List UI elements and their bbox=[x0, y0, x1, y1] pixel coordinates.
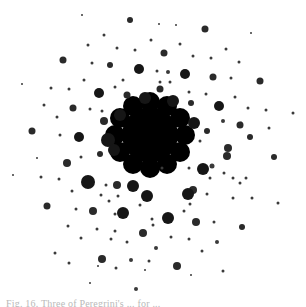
ink-dot bbox=[103, 34, 106, 37]
ink-dot bbox=[58, 178, 61, 181]
ink-dot bbox=[89, 207, 97, 215]
ink-dot bbox=[188, 100, 194, 106]
ink-dot bbox=[116, 47, 119, 50]
central-blob bbox=[105, 92, 195, 178]
central-blob-lobe bbox=[140, 158, 160, 178]
ink-dot bbox=[210, 164, 215, 169]
figure-caption: Fig. 16. Three of Peregrini's ... for ..… bbox=[6, 299, 306, 307]
ink-dot bbox=[151, 218, 154, 221]
ink-dot bbox=[179, 43, 182, 46]
ink-dot bbox=[139, 204, 142, 207]
ink-dot bbox=[36, 157, 38, 159]
ink-dot bbox=[12, 174, 14, 176]
ink-dot bbox=[159, 81, 162, 84]
ink-dot bbox=[75, 208, 78, 211]
ink-dot bbox=[162, 212, 174, 224]
ink-dot bbox=[114, 213, 117, 216]
ink-dot bbox=[100, 117, 108, 125]
ink-dot bbox=[210, 74, 217, 81]
ink-dot bbox=[257, 78, 264, 85]
ink-dot bbox=[265, 109, 268, 112]
ink-dot bbox=[80, 156, 83, 159]
ink-dot bbox=[234, 96, 237, 99]
dot-pattern-canvas bbox=[0, 0, 306, 307]
ink-dot bbox=[277, 202, 280, 205]
ink-dot bbox=[101, 110, 104, 113]
ink-dot bbox=[268, 127, 271, 130]
ink-dot bbox=[188, 117, 200, 129]
ink-dot bbox=[94, 88, 104, 98]
ink-dot bbox=[67, 225, 70, 228]
ink-dot bbox=[190, 274, 192, 276]
ink-dot bbox=[250, 32, 252, 34]
ink-dot bbox=[239, 224, 245, 230]
ink-dot bbox=[114, 86, 117, 89]
ink-dot bbox=[74, 132, 84, 142]
ink-dot bbox=[247, 134, 253, 140]
ink-dot bbox=[192, 55, 195, 58]
ink-dot bbox=[189, 203, 192, 206]
ink-dot bbox=[44, 203, 51, 210]
ink-dot bbox=[204, 128, 210, 134]
ink-dot bbox=[183, 210, 186, 213]
ink-dot bbox=[114, 230, 117, 233]
ink-dot bbox=[210, 57, 213, 60]
ink-dot bbox=[97, 151, 103, 157]
ink-dot bbox=[166, 70, 170, 74]
ink-dot bbox=[89, 108, 92, 111]
ink-dot bbox=[197, 163, 209, 175]
ink-dot bbox=[239, 182, 242, 185]
central-blob-lobe bbox=[170, 108, 190, 128]
ink-dot bbox=[50, 87, 53, 90]
ink-dot bbox=[126, 241, 129, 244]
ink-dot bbox=[144, 269, 146, 271]
ink-dot bbox=[224, 144, 232, 152]
ink-dot bbox=[223, 172, 226, 175]
ink-dot bbox=[40, 176, 43, 179]
ink-dot bbox=[100, 194, 103, 197]
ink-dot bbox=[114, 109, 126, 121]
ink-dot bbox=[63, 159, 71, 167]
ink-dot bbox=[98, 255, 106, 263]
ink-dot bbox=[169, 81, 172, 84]
ink-dot bbox=[230, 77, 233, 80]
ink-dot bbox=[91, 62, 94, 65]
ink-dot bbox=[209, 177, 212, 180]
ink-dot bbox=[129, 258, 133, 262]
ink-dot bbox=[182, 188, 194, 200]
ink-dot bbox=[192, 218, 200, 226]
ink-dot bbox=[202, 26, 209, 33]
ink-dot bbox=[238, 61, 241, 64]
ink-dot bbox=[105, 184, 108, 187]
ink-dot bbox=[134, 287, 138, 291]
ink-dot bbox=[232, 177, 235, 180]
ink-dot bbox=[81, 175, 95, 189]
ink-dot bbox=[245, 177, 248, 180]
ink-dot bbox=[173, 262, 181, 270]
ink-dot bbox=[71, 190, 74, 193]
ink-dot bbox=[83, 79, 86, 82]
ink-dot bbox=[167, 95, 179, 107]
ink-dot bbox=[60, 57, 67, 64]
ink-dot bbox=[54, 252, 57, 255]
ink-dot bbox=[139, 92, 151, 104]
ink-dot bbox=[206, 193, 209, 196]
ink-dot bbox=[251, 197, 254, 200]
ink-dot bbox=[175, 24, 177, 26]
ink-dot bbox=[134, 49, 137, 52]
ink-dot bbox=[115, 267, 118, 270]
ink-dot bbox=[134, 64, 144, 74]
ink-dot bbox=[157, 86, 164, 93]
ink-dot bbox=[161, 50, 168, 57]
dot-pattern-figure bbox=[0, 0, 306, 307]
ink-dot bbox=[214, 101, 224, 111]
ink-dot bbox=[148, 260, 151, 263]
ink-dot bbox=[68, 88, 71, 91]
ink-dot bbox=[117, 195, 120, 198]
ink-dot bbox=[150, 39, 153, 42]
ink-dot bbox=[110, 238, 113, 241]
ink-dot bbox=[97, 265, 99, 267]
ink-dot bbox=[70, 105, 77, 112]
ink-dot bbox=[232, 197, 235, 200]
ink-dot bbox=[201, 250, 204, 253]
